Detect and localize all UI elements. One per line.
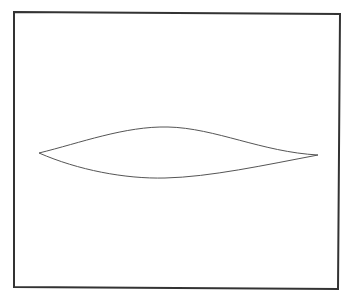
background: [0, 0, 354, 303]
diagram-canvas: [0, 0, 354, 303]
